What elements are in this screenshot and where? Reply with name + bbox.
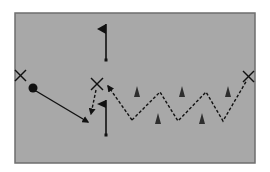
field	[15, 13, 255, 163]
drill-diagram	[0, 0, 270, 172]
